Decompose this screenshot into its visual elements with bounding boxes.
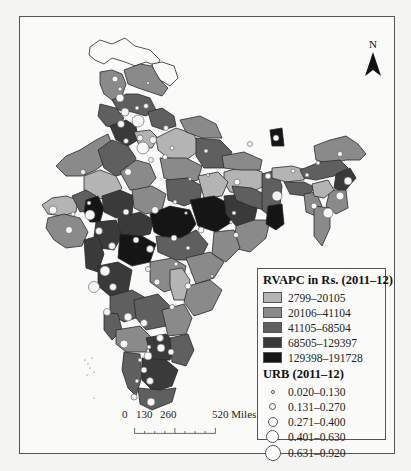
north-arrow-icon <box>363 50 383 78</box>
rvapc-swatch-4 <box>263 337 282 348</box>
rvapc-legend-row: 41105–68504 <box>263 320 380 335</box>
urb-label-1: 0.020–0.130 <box>288 386 346 398</box>
region-bihar-north <box>222 152 262 170</box>
rvapc-legend-row: 20106–41104 <box>263 305 380 320</box>
region-ap-south <box>162 304 192 336</box>
lakshadweep-islands <box>84 357 94 398</box>
region-assam-west <box>272 166 306 182</box>
region-tn-south <box>138 388 176 410</box>
urb-circle-icon-1 <box>271 390 275 394</box>
rvapc-label-3: 41105–68504 <box>288 322 351 334</box>
region-kashmir-unshaded <box>89 38 160 66</box>
rvapc-swatch-5 <box>263 352 282 363</box>
rvapc-label-2: 20106–41104 <box>288 307 351 319</box>
region-uttarakhand <box>148 108 176 130</box>
urb-label-4: 0.401–0.630 <box>288 431 346 443</box>
region-tn-central <box>142 358 178 392</box>
rvapc-swatch-2 <box>263 307 282 318</box>
rvapc-swatch-1 <box>263 292 282 303</box>
urb-label-2: 0.131–0.270 <box>288 401 346 413</box>
rvapc-legend-row: 2799–20105 <box>263 290 380 305</box>
rvapc-legend-row: 68505–129397 <box>263 335 380 350</box>
scale-label-260: 260 <box>160 408 177 420</box>
scale-label-130: 130 <box>136 408 153 420</box>
urb-legend-row: 0.631–0.920 <box>263 444 380 461</box>
north-label: N <box>361 38 385 50</box>
urb-label-3: 0.271–0.400 <box>288 416 346 428</box>
urb-legend-title: URB (2011–12) <box>263 367 380 382</box>
scale-label-520: 520 Miles <box>212 408 256 420</box>
scale-bar: 0 130 260 520 Miles <box>122 408 292 439</box>
rvapc-legend-row: 129398–191728 <box>263 350 380 365</box>
urb-circle-icon-5 <box>265 445 281 461</box>
region-mp-west <box>102 190 134 218</box>
north-arrow: N <box>361 38 385 82</box>
urb-legend-row: 0.020–0.130 <box>263 384 380 399</box>
rvapc-legend-title: RVAPC in Rs. (2011–12) <box>263 273 380 288</box>
rvapc-label-1: 2799–20105 <box>288 292 346 304</box>
scale-label-0: 0 <box>122 408 128 420</box>
urb-label-5: 0.631–0.920 <box>288 447 346 459</box>
rvapc-label-5: 129398–191728 <box>288 352 363 364</box>
region-mp-ne <box>198 172 228 198</box>
rvapc-label-4: 68505–129397 <box>288 337 357 349</box>
rvapc-swatch-3 <box>263 322 282 333</box>
scale-bar-ticks <box>122 427 232 435</box>
